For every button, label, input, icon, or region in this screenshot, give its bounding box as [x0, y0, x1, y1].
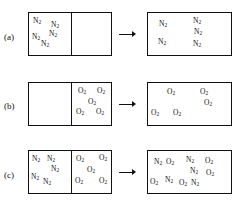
molecule-subscript: 2	[38, 19, 41, 25]
molecule-o2: O2	[150, 178, 158, 186]
molecule-n2: N2	[31, 173, 39, 181]
molecule-subscript: 2	[163, 40, 166, 46]
molecule-subscript: 2	[198, 19, 201, 25]
molecule-o2: O2	[75, 177, 83, 185]
molecule-subscript: 2	[209, 101, 212, 107]
molecule-subscript: 2	[80, 179, 83, 185]
molecule-subscript: 2	[48, 180, 51, 186]
molecule-subscript: 2	[54, 32, 57, 38]
molecule-n2: N2	[191, 179, 199, 187]
arrow-head	[132, 31, 136, 37]
molecule-o2: O2	[206, 169, 214, 177]
molecule-subscript: 2	[56, 167, 59, 173]
molecule-subscript: 2	[178, 111, 181, 117]
molecule-n2: N2	[193, 40, 201, 48]
molecule-n2: N2	[159, 20, 167, 28]
molecule-n2: N2	[43, 178, 51, 186]
molecule-o2: O2	[167, 88, 175, 96]
panel-label-b: (b)	[4, 101, 15, 111]
molecule-subscript: 2	[170, 178, 173, 184]
molecule-subscript: 2	[184, 181, 187, 187]
molecule-o2: O2	[99, 177, 107, 185]
panel-c: (c)N2N2N2N2N2O2O2O2O2O2N2O2N2O2N2O2O2N2O…	[0, 150, 241, 194]
molecule-o2: O2	[166, 158, 174, 166]
molecule-o2: O2	[87, 166, 95, 174]
molecule-n2: N2	[193, 17, 201, 25]
arrow-shaft	[119, 104, 133, 105]
molecule-subscript: 2	[46, 42, 49, 48]
left-compartment-a: N2N2N2N2N2	[29, 13, 71, 55]
molecule-subscript: 2	[172, 90, 175, 96]
molecule-o2: O2	[97, 87, 105, 95]
molecule-subscript: 2	[164, 22, 167, 28]
molecule-subscript: 2	[104, 156, 107, 162]
molecule-o2: O2	[99, 154, 107, 162]
molecule-subscript: 2	[210, 159, 213, 165]
arrow-shaft	[119, 172, 133, 173]
molecule-o2: O2	[78, 87, 86, 95]
molecule-subscript: 2	[156, 111, 159, 117]
molecule-subscript: 2	[81, 110, 84, 116]
arrow-head	[132, 101, 136, 107]
molecule-subscript: 2	[101, 110, 104, 116]
molecule-subscript: 2	[198, 42, 201, 48]
molecule-subscript: 2	[56, 23, 59, 29]
panel-b: (b)O2O2O2O2O2O2O2O2O2O2	[0, 82, 241, 126]
panel-label-a: (a)	[4, 32, 14, 42]
process-arrow-a	[119, 12, 137, 56]
molecule-o2: O2	[76, 108, 84, 116]
gas-mixing-figure: (a)N2N2N2N2N2N2N2N2N2N2(b)O2O2O2O2O2O2O2…	[0, 0, 241, 209]
molecule-subscript: 2	[159, 160, 162, 166]
molecule-subscript: 2	[211, 171, 214, 177]
after-container-a: N2N2N2N2N2	[147, 12, 232, 56]
panel-a: (a)N2N2N2N2N2N2N2N2N2N2	[0, 12, 241, 56]
molecule-subscript: 2	[102, 89, 105, 95]
molecule-o2: O2	[151, 109, 159, 117]
molecule-o2: O2	[205, 157, 213, 165]
arrow-shaft	[119, 34, 133, 35]
molecule-o2: O2	[173, 109, 181, 117]
molecule-subscript: 2	[155, 180, 158, 186]
molecule-subscript: 2	[93, 100, 96, 106]
molecule-subscript: 2	[199, 30, 202, 36]
molecule-o2: O2	[179, 179, 187, 187]
before-container-b: O2O2O2O2O2	[28, 82, 112, 126]
process-arrow-b	[119, 82, 137, 126]
after-container-c: N2O2N2O2N2O2O2N2O2N2	[147, 150, 232, 194]
molecule-n2: N2	[32, 33, 40, 41]
molecule-subscript: 2	[92, 168, 95, 174]
arrow-head	[132, 169, 136, 175]
molecule-o2: O2	[204, 99, 212, 107]
molecule-n2: N2	[194, 28, 202, 36]
molecule-n2: N2	[33, 17, 41, 25]
molecule-subscript: 2	[104, 179, 107, 185]
molecule-o2: O2	[76, 155, 84, 163]
panel-label-c: (c)	[4, 170, 14, 180]
molecule-n2: N2	[49, 30, 57, 38]
right-compartment-c: O2O2O2O2O2	[73, 151, 111, 193]
molecule-n2: N2	[186, 156, 194, 164]
molecule-subscript: 2	[36, 175, 39, 181]
after-container-b: O2O2O2O2O2	[147, 82, 232, 126]
left-compartment-c: N2N2N2N2N2	[29, 151, 71, 193]
molecule-subscript: 2	[37, 157, 40, 163]
molecule-n2: N2	[154, 158, 162, 166]
molecule-subscript: 2	[81, 157, 84, 163]
process-arrow-c	[119, 150, 137, 194]
molecule-subscript: 2	[196, 181, 199, 187]
molecule-o2: O2	[96, 108, 104, 116]
before-container-c: N2N2N2N2N2O2O2O2O2O2	[28, 150, 112, 194]
molecule-n2: N2	[51, 21, 59, 29]
molecule-subscript: 2	[83, 89, 86, 95]
molecule-o2: O2	[200, 88, 208, 96]
molecule-subscript: 2	[37, 35, 40, 41]
molecule-o2: O2	[88, 98, 96, 106]
molecule-n2: N2	[47, 155, 55, 163]
before-container-a: N2N2N2N2N2	[28, 12, 112, 56]
molecule-subscript: 2	[205, 90, 208, 96]
molecule-subscript: 2	[191, 158, 194, 164]
right-compartment-b: O2O2O2O2O2	[73, 83, 111, 125]
molecule-n2: N2	[165, 176, 173, 184]
molecule-n2: N2	[32, 155, 40, 163]
molecule-subscript: 2	[195, 169, 198, 175]
